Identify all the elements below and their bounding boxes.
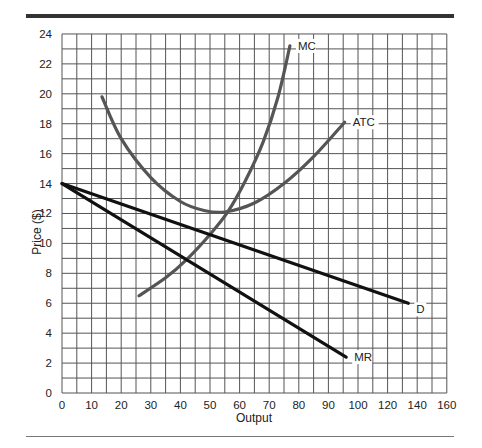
y-tick-label: 24 — [39, 28, 52, 40]
x-axis-label: Output — [236, 411, 273, 425]
y-tick-label: 6 — [46, 297, 52, 309]
x-tick-label: 30 — [144, 399, 157, 411]
y-tick-label: 16 — [39, 148, 52, 160]
y-tick-label: 18 — [39, 118, 52, 130]
y-tick-label: 4 — [46, 327, 53, 339]
x-tick-label: 120 — [378, 399, 397, 411]
curve-label-mr: MR — [354, 351, 372, 363]
y-tick-label: 8 — [46, 267, 52, 279]
x-tick-label: 20 — [115, 399, 128, 411]
x-tick-label: 100 — [348, 399, 367, 411]
curve-label-mc: MC — [298, 40, 316, 52]
x-tick-label: 140 — [408, 399, 427, 411]
curve-label-d: D — [416, 303, 424, 315]
y-tick-label: 20 — [39, 88, 52, 100]
x-tick-label: 80 — [292, 399, 305, 411]
x-tick-label: 60 — [233, 399, 246, 411]
x-tick-label: 50 — [204, 399, 217, 411]
y-tick-label: 0 — [46, 387, 52, 399]
curve-atc — [102, 97, 345, 213]
curves — [62, 46, 408, 357]
grid — [62, 34, 447, 393]
y-tick-label: 2 — [46, 357, 52, 369]
y-tick-label: 22 — [39, 58, 52, 70]
curve-labels: MCATCDMR — [296, 39, 426, 364]
x-tick-label: 160 — [437, 399, 456, 411]
x-tick-label: 40 — [174, 399, 187, 411]
axes: 0102030405060708090100120140160024681012… — [39, 28, 456, 411]
x-tick-label: 0 — [59, 399, 65, 411]
y-tick-label: 14 — [39, 178, 52, 190]
x-tick-label: 10 — [85, 399, 98, 411]
chart: 0102030405060708090100120140160024681012… — [0, 0, 482, 448]
y-axis-label: Price ($) — [30, 209, 44, 254]
x-tick-label: 90 — [322, 399, 335, 411]
bottom-rule — [26, 436, 454, 437]
curve-label-atc: ATC — [353, 116, 375, 128]
x-tick-label: 70 — [263, 399, 276, 411]
